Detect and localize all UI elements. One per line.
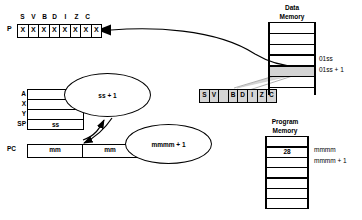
data-memory-rung — [268, 87, 316, 88]
bubble-stack-pointer-increment: ss + 1 — [64, 73, 151, 117]
flag-byte-cell: D — [238, 90, 248, 102]
flag-name-i: I — [61, 13, 70, 20]
status-register-cell: X — [39, 25, 50, 37]
register-name-y: Y — [7, 109, 26, 119]
status-register-cell: X — [60, 25, 71, 37]
pc-cell-high: mm — [28, 145, 83, 157]
register-row-sp: ss — [28, 120, 83, 129]
status-register-cell: X — [29, 25, 40, 37]
register-row-y — [28, 110, 83, 120]
flag-byte-cell: Z — [258, 90, 268, 102]
program-memory-address-label-1: mmmm — [314, 147, 336, 154]
register-name-pc: PC — [7, 145, 16, 152]
program-memory-title-line2: Memory — [255, 126, 315, 135]
data-memory-rail-left — [268, 22, 270, 95]
cpu-register-names: A X Y SP — [7, 89, 26, 129]
data-memory-title-line2: Memory — [262, 12, 322, 21]
flag-name-z: Z — [72, 13, 81, 20]
flag-byte-cell: B — [229, 90, 239, 102]
data-memory-title-line1: Data — [262, 3, 322, 12]
data-memory-rung — [268, 44, 316, 45]
register-name-a: A — [7, 89, 26, 99]
flag-name-b: B — [40, 13, 49, 20]
program-memory-rail-left — [265, 136, 267, 209]
status-register-cell: X — [50, 25, 61, 37]
program-memory-rung — [265, 177, 309, 178]
program-memory-rung — [265, 157, 309, 158]
data-memory-rung — [268, 33, 316, 34]
program-memory-rung — [265, 208, 309, 209]
register-name-sp: SP — [7, 119, 26, 129]
data-memory-rung — [268, 54, 316, 55]
program-memory-title-line1: Program — [255, 117, 315, 126]
program-memory-rail-right — [307, 136, 309, 209]
flag-name-d: D — [50, 13, 59, 20]
register-name-x: X — [7, 99, 26, 109]
program-memory-cell-value: 28 — [267, 149, 306, 156]
flag-name-v: V — [29, 13, 38, 20]
status-flag-names: S V B D I Z C — [18, 13, 94, 22]
data-memory-address-label-1: 01ss — [319, 56, 333, 63]
program-memory-address-label-2: mmmm + 1 — [314, 158, 347, 165]
data-memory-highlight — [270, 65, 313, 76]
program-memory-rung — [265, 167, 309, 168]
flag-byte-cell — [219, 90, 229, 102]
data-memory-rung — [268, 76, 316, 77]
data-memory — [268, 22, 316, 95]
status-register-cell: X — [81, 25, 92, 37]
flag-byte-cell: I — [248, 90, 258, 102]
data-memory-rail-right — [314, 22, 316, 95]
program-counter-register: mm mm — [27, 144, 138, 158]
flag-byte-cell: V — [210, 90, 220, 102]
bubble-program-counter-increment: mmmm + 1 — [125, 124, 212, 164]
status-register-cell: X — [92, 25, 102, 37]
program-memory-rung — [265, 188, 309, 189]
diagram-canvas: S V B D I Z C P X X X X X X X X A X Y SP… — [0, 0, 362, 220]
flag-byte-in-memory: S V B D I Z C — [199, 89, 277, 103]
status-register-label: P — [7, 25, 12, 32]
data-memory-address-label-2: 01ss + 1 — [319, 67, 344, 74]
program-memory: 28 — [265, 136, 309, 209]
status-register-cell: X — [71, 25, 82, 37]
status-register: X X X X X X X X — [17, 24, 102, 38]
flag-name-c: C — [83, 13, 92, 20]
program-memory-rung — [265, 198, 309, 199]
flag-byte-cell: S — [200, 90, 210, 102]
status-register-cell: X — [18, 25, 29, 37]
data-memory-rung — [268, 65, 316, 66]
program-memory-rung — [265, 136, 309, 137]
flag-name-s: S — [18, 13, 27, 20]
data-memory-rung — [268, 22, 316, 23]
